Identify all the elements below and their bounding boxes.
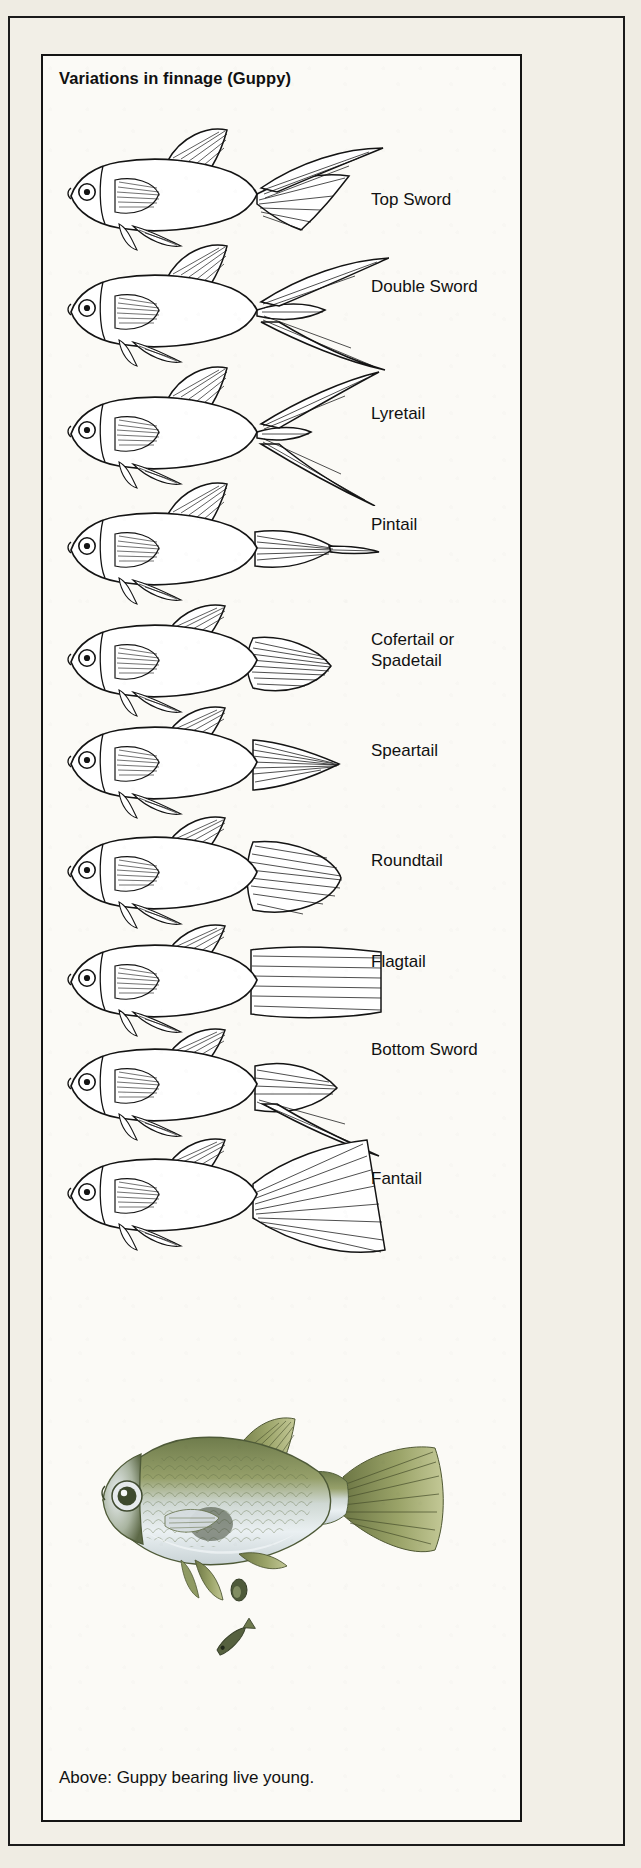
variation-label-cofertail: Cofertail or Spadetail [371,629,454,671]
variation-label-roundtail: Roundtail [371,850,443,871]
variation-label-lyretail: Lyretail [371,403,425,424]
scanned-page-border: Variations in finnage (Guppy) [8,16,625,1846]
variation-label-top-sword: Top Sword [371,189,451,210]
fish-illustration-fantail [49,1118,389,1272]
photo-caption: Above: Guppy bearing live young. [59,1768,314,1788]
variation-label-bottom-sword: Bottom Sword [371,1039,478,1060]
variation-label-fantail: Fantail [371,1168,422,1189]
variation-label-flagtail: Flagtail [371,951,426,972]
guppy-photo [43,1272,522,1752]
variation-label-pintail: Pintail [371,514,417,535]
page-title: Variations in finnage (Guppy) [59,69,291,88]
variation-label-double-sword: Double Sword [371,276,478,297]
variation-label-speartail: Speartail [371,740,438,761]
illustration-plate: Variations in finnage (Guppy) [41,54,522,1822]
